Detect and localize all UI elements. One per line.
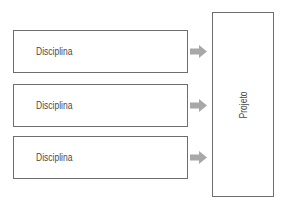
discipline-box-2: Disciplina — [13, 84, 188, 127]
discipline-box-1: Disciplina — [13, 30, 188, 73]
right-arrow-icon — [190, 99, 207, 112]
right-arrow-icon — [190, 45, 207, 58]
discipline-box-3: Disciplina — [13, 136, 188, 179]
discipline-label: Disciplina — [36, 31, 72, 72]
discipline-label: Disciplina — [36, 137, 72, 178]
project-label: Projeto — [238, 91, 249, 118]
discipline-label: Disciplina — [36, 85, 72, 126]
right-arrow-icon — [190, 151, 207, 164]
project-box: Projeto — [212, 12, 274, 197]
